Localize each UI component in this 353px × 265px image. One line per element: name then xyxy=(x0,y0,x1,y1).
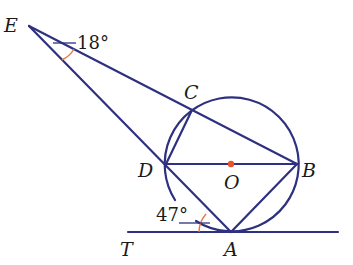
angle-mark-E xyxy=(62,49,74,60)
label-D: D xyxy=(137,159,153,181)
line-EA xyxy=(29,26,231,232)
label-O: O xyxy=(224,171,240,193)
angle-label-E: 18° xyxy=(77,32,109,53)
label-E: E xyxy=(3,14,18,36)
secant-line-EB xyxy=(29,26,297,164)
label-B: B xyxy=(301,159,316,181)
angle-label-A: 47° xyxy=(156,204,188,225)
label-C: C xyxy=(184,81,199,103)
label-T: T xyxy=(120,238,134,260)
label-A: A xyxy=(222,238,238,260)
geometry-diagram: E C D O B A T 18° 47° xyxy=(0,0,353,265)
center-point-O xyxy=(228,161,234,167)
